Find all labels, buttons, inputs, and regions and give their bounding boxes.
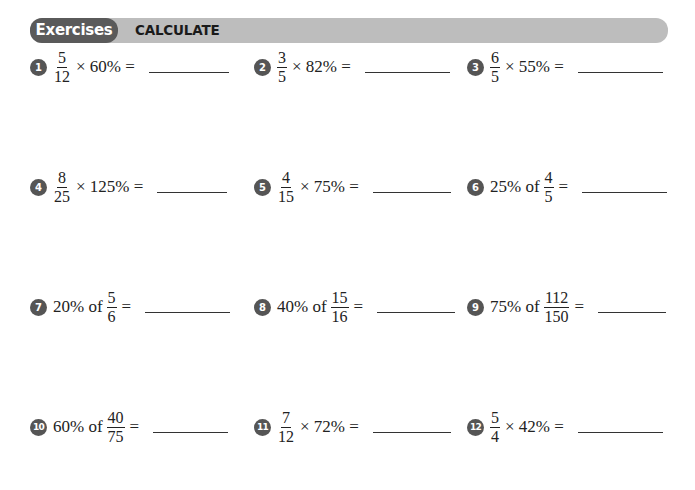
exercises-label: Exercises [30, 18, 118, 43]
exercise-10: 10 60% of 40 75 = [30, 407, 228, 447]
expression-prefix: 75% of [490, 297, 540, 317]
exercise-number-badge: 4 [30, 179, 47, 196]
fraction: 4 15 [277, 170, 295, 205]
expression-prefix: 60% of [53, 417, 103, 437]
fraction-denominator: 16 [331, 308, 349, 325]
exercise-number-badge: 9 [467, 299, 484, 316]
fraction: 112 150 [544, 290, 570, 325]
fraction-numerator: 112 [544, 290, 569, 308]
fraction-denominator: 75 [107, 428, 125, 445]
section-header-bar [30, 18, 668, 43]
fraction-numerator: 40 [107, 410, 125, 428]
exercise-number-badge: 7 [30, 299, 47, 316]
fraction-numerator: 4 [544, 170, 554, 188]
fraction-numerator: 3 [277, 50, 287, 68]
exercise-number-badge: 12 [467, 419, 484, 436]
exercise-7: 7 20% of 5 6 = [30, 287, 230, 327]
exercise-12: 12 5 4 × 42% = [467, 407, 663, 447]
answer-blank[interactable] [377, 312, 455, 313]
fraction: 40 75 [107, 410, 125, 445]
fraction: 7 12 [277, 410, 295, 445]
expression-suffix: = [559, 177, 569, 197]
answer-blank[interactable] [153, 432, 228, 433]
exercise-number-badge: 2 [254, 59, 271, 76]
fraction-denominator: 5 [277, 68, 287, 85]
answer-blank[interactable] [582, 192, 667, 193]
expression-prefix: 40% of [277, 297, 327, 317]
expression-suffix: × 60% = [76, 57, 135, 77]
exercise-1: 1 5 12 × 60% = [30, 47, 229, 87]
exercise-number-badge: 6 [467, 179, 484, 196]
fraction-denominator: 12 [277, 428, 295, 445]
answer-blank[interactable] [157, 192, 227, 193]
fraction-denominator: 15 [277, 188, 295, 205]
fraction: 5 12 [53, 50, 71, 85]
fraction: 15 16 [331, 290, 349, 325]
expression-suffix: = [354, 297, 364, 317]
fraction: 6 5 [490, 50, 500, 85]
exercise-5: 5 4 15 × 75% = [254, 167, 451, 207]
expression-suffix: × 55% = [505, 57, 564, 77]
exercise-2: 2 3 5 × 82% = [254, 47, 450, 87]
fraction: 3 5 [277, 50, 287, 85]
answer-blank[interactable] [149, 72, 229, 73]
fraction-numerator: 4 [281, 170, 291, 188]
exercise-number-badge: 8 [254, 299, 271, 316]
fraction: 4 5 [544, 170, 554, 205]
expression-suffix: × 125% = [76, 177, 143, 197]
exercise-3: 3 6 5 × 55% = [467, 47, 663, 87]
fraction: 5 6 [107, 290, 117, 325]
answer-blank[interactable] [365, 72, 450, 73]
expression-prefix: 20% of [53, 297, 103, 317]
fraction-numerator: 8 [57, 170, 67, 188]
answer-blank[interactable] [145, 312, 230, 313]
expression-prefix: 25% of [490, 177, 540, 197]
exercise-number-badge: 11 [254, 419, 271, 436]
exercise-number-badge: 10 [30, 419, 47, 436]
expression-suffix: × 72% = [300, 417, 359, 437]
expression-suffix: × 42% = [505, 417, 564, 437]
answer-blank[interactable] [598, 312, 666, 313]
answer-blank[interactable] [578, 432, 663, 433]
exercise-8: 8 40% of 15 16 = [254, 287, 455, 327]
expression-suffix: = [575, 297, 585, 317]
fraction-denominator: 5 [490, 68, 500, 85]
fraction-denominator: 12 [53, 68, 71, 85]
fraction-numerator: 6 [490, 50, 500, 68]
exercise-number-badge: 1 [30, 59, 47, 76]
answer-blank[interactable] [373, 432, 451, 433]
fraction-numerator: 5 [57, 50, 67, 68]
exercise-4: 4 8 25 × 125% = [30, 167, 227, 207]
expression-suffix: × 75% = [300, 177, 359, 197]
exercise-9: 9 75% of 112 150 = [467, 287, 666, 327]
fraction-denominator: 6 [107, 308, 117, 325]
fraction-denominator: 5 [544, 188, 554, 205]
fraction-numerator: 15 [331, 290, 349, 308]
exercise-6: 6 25% of 4 5 = [467, 167, 667, 207]
expression-suffix: = [130, 417, 140, 437]
answer-blank[interactable] [578, 72, 663, 73]
fraction-numerator: 5 [107, 290, 117, 308]
fraction: 8 25 [53, 170, 71, 205]
fraction-denominator: 4 [490, 428, 500, 445]
exercise-11: 11 7 12 × 72% = [254, 407, 451, 447]
exercise-number-badge: 3 [467, 59, 484, 76]
expression-suffix: = [122, 297, 132, 317]
answer-blank[interactable] [373, 192, 451, 193]
fraction: 5 4 [490, 410, 500, 445]
fraction-numerator: 5 [490, 410, 500, 428]
exercise-number-badge: 5 [254, 179, 271, 196]
fraction-denominator: 25 [53, 188, 71, 205]
section-title: CALCULATE [135, 18, 219, 43]
fraction-denominator: 150 [544, 308, 570, 325]
expression-suffix: × 82% = [292, 57, 351, 77]
fraction-numerator: 7 [281, 410, 291, 428]
